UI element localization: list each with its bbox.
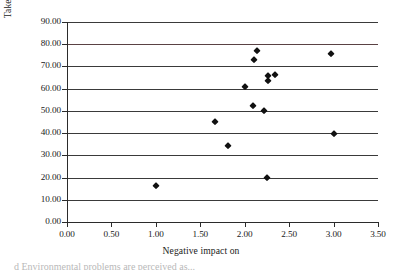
gridline-y-60.00 (67, 89, 378, 90)
y-tick-label-40.00: 40.00 (41, 128, 61, 137)
x-tick-label-3.00: 3.00 (326, 230, 342, 239)
gridline-y-90.00 (67, 22, 378, 23)
y-tick-label-0.00: 0.00 (45, 217, 61, 226)
gridline-y-30.00 (67, 155, 378, 156)
y-tick-label-80.00: 80.00 (41, 39, 61, 48)
x-tick-label-2.50: 2.50 (281, 230, 297, 239)
x-tick-label-0.50: 0.50 (104, 230, 120, 239)
x-tick-3.50 (378, 222, 379, 227)
gridline-y-70.00 (67, 66, 378, 67)
x-tick-label-2.00: 2.00 (237, 230, 253, 239)
y-tick-label-60.00: 60.00 (41, 84, 61, 93)
gridline-y-10.00 (67, 200, 378, 201)
x-axis-title: Negative impact on (0, 245, 402, 256)
scatter-chart-figure: 0.0010.0020.0030.0040.0050.0060.0070.008… (0, 0, 402, 270)
y-tick-label-10.00: 10.00 (41, 195, 61, 204)
x-tick-label-0.00: 0.00 (59, 230, 75, 239)
y-tick-label-70.00: 70.00 (41, 61, 61, 70)
x-tick-label-1.00: 1.00 (148, 230, 164, 239)
cut-off-caption: d Environmental problems are perceived a… (0, 261, 402, 270)
x-tick-label-3.50: 3.50 (370, 230, 386, 239)
gridline-y-80.00 (67, 44, 378, 45)
y-tick-label-90.00: 90.00 (41, 17, 61, 26)
y-tick-label-30.00: 30.00 (41, 150, 61, 159)
y-tick-label-50.00: 50.00 (41, 106, 61, 115)
y-tick-label-20.00: 20.00 (41, 173, 61, 182)
gridline-y-20.00 (67, 178, 378, 179)
gridline-y-50.00 (67, 111, 378, 112)
x-axis-line (67, 222, 378, 223)
y-axis-title: Taken actions on (2, 0, 13, 50)
y-axis-line (67, 22, 68, 222)
x-tick-label-1.50: 1.50 (192, 230, 208, 239)
